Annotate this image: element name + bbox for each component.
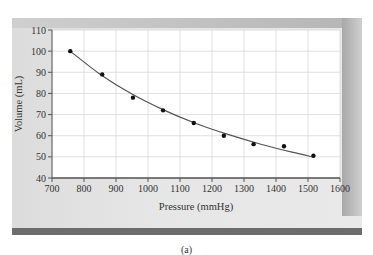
data-point	[222, 134, 226, 138]
data-point	[192, 121, 196, 125]
y-tick-label: 50	[36, 151, 46, 162]
x-tick-label: 800	[77, 183, 92, 194]
data-point	[131, 95, 135, 99]
x-axis-title: Pressure (mmHg)	[159, 201, 234, 213]
x-tick-label: 1600	[330, 183, 350, 194]
x-tick-label: 1400	[266, 183, 286, 194]
y-tick-label: 100	[31, 46, 46, 57]
data-point	[100, 72, 104, 76]
y-tick-label: 70	[36, 109, 46, 120]
data-point	[311, 154, 315, 158]
y-tick-label: 90	[36, 67, 46, 78]
y-tick-label: 60	[36, 130, 46, 141]
x-tick-label: 900	[109, 183, 124, 194]
y-tick-label: 80	[36, 88, 46, 99]
x-tick-label: 1100	[170, 183, 190, 194]
data-point	[68, 49, 72, 53]
figure-caption: (a)	[0, 244, 373, 255]
x-tick-label: 1500	[298, 183, 318, 194]
y-tick-label: 110	[31, 25, 46, 36]
y-axis-title: Volume (mL)	[13, 75, 25, 132]
y-tick-label: 40	[36, 173, 46, 184]
x-tick-label: 1200	[202, 183, 222, 194]
x-tick-label: 1000	[138, 183, 158, 194]
data-point	[282, 144, 286, 148]
x-tick-label: 700	[45, 183, 60, 194]
x-tick-label: 1300	[234, 183, 254, 194]
data-point	[251, 142, 255, 146]
plot-area	[52, 30, 340, 178]
data-point	[161, 108, 165, 112]
